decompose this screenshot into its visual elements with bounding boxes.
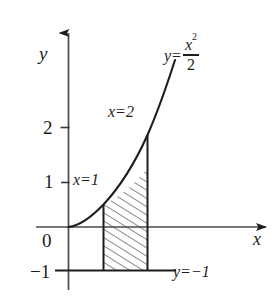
origin-label: 0 [42,231,52,250]
fraction-denominator: 2 [185,56,197,74]
y-tick-label-2: 2 [43,118,53,137]
curve-equation-fraction: x2 2 [183,36,199,74]
fraction-numerator: x2 [183,36,199,54]
x-axis-label: x [253,230,261,248]
shaded-region [104,169,148,271]
label-y-equals-negative-1: y=−1 [173,264,210,280]
label-x-equals-1: x=1 [73,172,99,188]
math-figure: y x 2 1 0 −1 x=1 x=2 y=−1 y= x2 2 [0,0,280,303]
y-axis-label: y [39,44,47,63]
numerator-variable: x [185,36,192,53]
curve-equation-prefix: y= [164,48,182,64]
y-tick-label-negative-1: −1 [30,262,50,281]
numerator-exponent: 2 [192,31,197,42]
curve-equation-label: y= x2 2 [164,37,199,75]
y-tick-label-1: 1 [44,172,54,191]
label-x-equals-2: x=2 [108,104,134,120]
